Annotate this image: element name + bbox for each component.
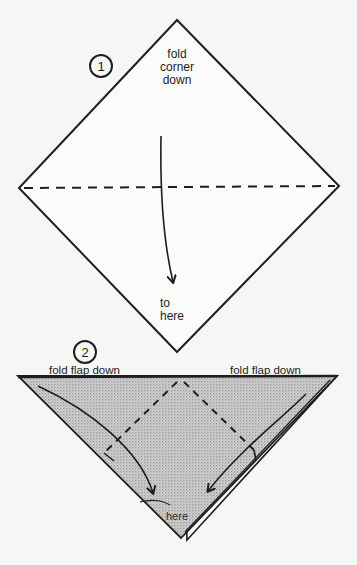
step2-right-instruction: fold flap down xyxy=(230,364,301,377)
step1-number: 1 xyxy=(97,59,104,74)
step1-target-line-2: here xyxy=(160,310,190,323)
step2-number-badge: 2 xyxy=(73,340,97,364)
step1-number-badge: 1 xyxy=(89,54,113,78)
step2-left-instruction: fold flap down xyxy=(49,364,120,377)
step1-instruction-line-3: down xyxy=(152,74,202,87)
step1-instruction: fold corner down xyxy=(152,48,202,88)
step2-target-label: here xyxy=(166,510,188,522)
step2-number: 2 xyxy=(81,345,88,360)
step1-target-label: to here xyxy=(160,297,190,323)
